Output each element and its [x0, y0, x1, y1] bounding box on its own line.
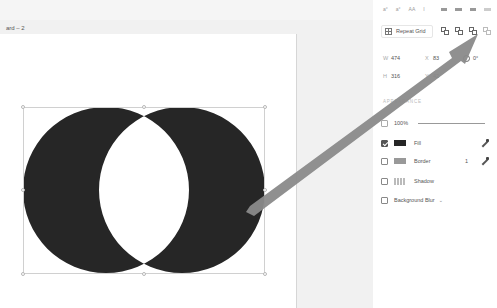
- align-justify-icon[interactable]: [484, 8, 491, 11]
- size-position-row-1: W 474 X 83 0°: [383, 53, 491, 63]
- text-size-icon[interactable]: a°: [383, 6, 388, 12]
- fill-checkbox[interactable]: [381, 140, 388, 147]
- text-case-icon[interactable]: AA: [409, 6, 416, 12]
- x-input[interactable]: 83: [433, 55, 463, 61]
- shadow-checkbox[interactable]: [381, 178, 388, 185]
- width-input[interactable]: 474: [391, 55, 425, 61]
- border-width-input[interactable]: 1: [465, 158, 468, 164]
- union-icon[interactable]: [441, 27, 449, 35]
- x-label: X: [425, 55, 433, 61]
- repeat-grid-button[interactable]: Repeat Grid: [381, 25, 433, 38]
- opacity-slider[interactable]: [418, 123, 485, 124]
- align-right-icon[interactable]: [470, 8, 477, 11]
- chevron-down-icon[interactable]: ⌄: [439, 197, 443, 203]
- selection-bounding-box: [23, 107, 265, 274]
- y-input[interactable]: 42: [433, 73, 467, 79]
- fill-row: Fill: [381, 138, 489, 148]
- shadow-row: Shadow: [381, 176, 489, 186]
- height-input[interactable]: 316: [391, 73, 425, 79]
- width-label: W: [383, 55, 391, 61]
- y-label: Y: [425, 73, 433, 79]
- resize-handle-bl[interactable]: [21, 272, 25, 276]
- resize-handle-r[interactable]: [263, 188, 267, 192]
- fill-color-swatch[interactable]: [394, 140, 406, 146]
- fill-label: Fill: [414, 140, 421, 146]
- background-blur-checkbox[interactable]: [381, 197, 388, 204]
- text-size-icon[interactable]: a°: [396, 6, 401, 12]
- appearance-title: APPEARANCE: [383, 99, 422, 104]
- app-window: ard – 2 a° a° AA I Repeat Grid: [0, 0, 497, 308]
- resize-handle-b[interactable]: [142, 272, 146, 276]
- eyedropper-icon[interactable]: [480, 157, 489, 166]
- exclude-overlap-icon[interactable]: [483, 27, 491, 35]
- resize-handle-tl[interactable]: [21, 105, 25, 109]
- subtract-icon[interactable]: [455, 27, 463, 35]
- border-label: Border: [414, 158, 431, 164]
- rotation-icon: [463, 55, 470, 62]
- opacity-value[interactable]: 100%: [394, 120, 408, 126]
- opacity-icon: [381, 120, 388, 127]
- background-blur-row: Background Blur ⌄: [381, 195, 489, 205]
- repeat-grid-label: Repeat Grid: [396, 28, 426, 34]
- shadow-icon: [394, 178, 406, 185]
- text-style-icon[interactable]: I: [423, 6, 424, 12]
- resize-handle-br[interactable]: [263, 272, 267, 276]
- resize-handle-t[interactable]: [142, 105, 146, 109]
- resize-handle-tr[interactable]: [263, 105, 267, 109]
- background-blur-label: Background Blur: [394, 197, 435, 203]
- rotation-input[interactable]: 0°: [473, 55, 478, 61]
- align-center-icon[interactable]: [455, 8, 462, 11]
- text-toolbar: a° a° AA I: [383, 4, 491, 14]
- border-color-swatch[interactable]: [394, 158, 406, 164]
- boolean-operations: [441, 27, 491, 35]
- resize-handle-l[interactable]: [21, 188, 25, 192]
- border-row: Border 1: [381, 156, 489, 166]
- property-inspector: a° a° AA I Repeat Grid W 474: [373, 0, 497, 308]
- size-position-row-2: H 316 Y 42: [383, 71, 491, 81]
- grid-icon: [385, 28, 392, 35]
- opacity-row: 100%: [381, 118, 489, 128]
- intersect-icon[interactable]: [469, 27, 477, 35]
- height-label: H: [383, 73, 391, 79]
- repeat-grid-row: Repeat Grid: [381, 24, 491, 38]
- align-left-icon[interactable]: [441, 8, 448, 11]
- border-checkbox[interactable]: [381, 158, 388, 165]
- eyedropper-icon[interactable]: [480, 139, 489, 148]
- shadow-label: Shadow: [414, 178, 434, 184]
